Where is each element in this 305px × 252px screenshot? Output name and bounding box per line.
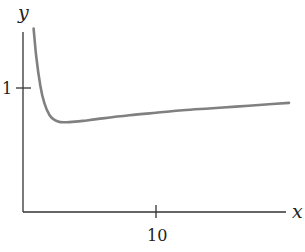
chart-svg: y x 1 10	[0, 0, 305, 252]
chart: y x 1 10	[0, 0, 305, 252]
x-axis-label: x	[292, 200, 303, 222]
y-tick-label: 1	[2, 79, 12, 98]
y-axis-label: y	[17, 1, 29, 23]
x-tick-label: 10	[147, 226, 167, 245]
data-curve	[34, 29, 289, 123]
